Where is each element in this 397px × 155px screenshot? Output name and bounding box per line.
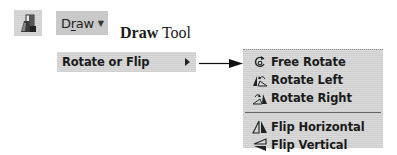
submenu-item-free-rotate[interactable]: Free Rotate — [243, 53, 383, 71]
submenu-item-label: Rotate Right — [271, 91, 352, 105]
rotate-flip-submenu: Free Rotate Rotate Left Rotate Right — [243, 49, 383, 148]
submenu-item-label: Free Rotate — [271, 55, 346, 69]
submenu-item-rotate-left[interactable]: Rotate Left — [243, 71, 383, 89]
submenu-item-flip-vertical[interactable]: Flip Vertical — [243, 136, 383, 154]
draw-menu-button[interactable]: Draw ▼ — [56, 11, 108, 35]
pointer-arrow-icon — [199, 59, 243, 68]
rotate-left-icon — [252, 73, 268, 87]
caption-regular: Tool — [158, 24, 191, 41]
submenu-item-label: Flip Horizontal — [271, 120, 365, 134]
caption-bold: Draw — [120, 24, 158, 41]
draw-toolbar-icon-button[interactable] — [14, 10, 42, 36]
draw-button-label: Draw — [61, 16, 94, 31]
menu-item-label: Rotate or Flip — [62, 55, 149, 69]
draw-shapes-icon — [17, 12, 39, 34]
submenu-separator — [245, 112, 381, 113]
submenu-item-flip-horizontal[interactable]: Flip Horizontal — [243, 118, 383, 136]
free-rotate-icon — [252, 55, 268, 69]
flip-vertical-icon — [252, 138, 268, 152]
submenu-item-label: Rotate Left — [271, 73, 343, 87]
chevron-down-icon: ▼ — [98, 19, 104, 28]
figure-caption: Draw Tool — [120, 24, 191, 42]
rotate-right-icon — [252, 91, 268, 105]
submenu-arrow-icon — [185, 58, 190, 66]
submenu-item-rotate-right[interactable]: Rotate Right — [243, 89, 383, 107]
submenu-item-label: Flip Vertical — [271, 138, 347, 152]
menu-item-rotate-or-flip[interactable]: Rotate or Flip — [57, 52, 196, 72]
flip-horizontal-icon — [252, 120, 268, 134]
